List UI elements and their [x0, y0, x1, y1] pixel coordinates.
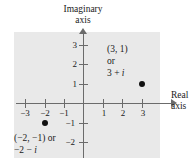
imaginary-axis-title-line2: axis: [53, 15, 113, 26]
real-axis-line: [16, 103, 172, 104]
complex-plane-figure: −3 −2 −1 1 2 3 3 2 1 −1 −2 Imaginary axi…: [0, 0, 196, 166]
y-tick-label: 1: [63, 79, 77, 89]
y-tick-mark: [79, 123, 88, 124]
x-tick-mark: [103, 99, 104, 108]
y-tick-mark: [79, 84, 88, 85]
annotation-complex-prefix: −2 −: [14, 145, 34, 155]
imaginary-axis-line: [83, 34, 84, 158]
annotation-complex-form: −2 − i: [14, 144, 56, 156]
annotation-imaginary-unit: i: [34, 145, 37, 155]
x-tick-label: 1: [96, 108, 112, 118]
annotation-complex-form: 3 + i: [107, 67, 128, 79]
x-tick-label: 3: [135, 108, 151, 118]
annotation-point-3-1: (3, 1) or 3 + i: [107, 43, 128, 79]
x-tick-label: −2: [37, 108, 53, 118]
y-tick-label: 2: [63, 59, 77, 69]
imaginary-axis-title-line1: Imaginary: [53, 4, 113, 15]
annotation-coordinate: (−2, −1) or: [14, 132, 56, 144]
real-axis-title: Real axis: [171, 90, 196, 112]
annotation-imaginary-unit: i: [122, 68, 125, 78]
annotation-coordinate: (3, 1): [107, 43, 128, 55]
data-point-minus2-minus1: [42, 120, 48, 126]
x-tick-label: −1: [56, 108, 72, 118]
y-tick-mark: [79, 64, 88, 65]
y-tick-label: −1: [61, 118, 75, 128]
annotation-connector: or: [107, 55, 128, 67]
real-axis-title-line2: axis: [171, 101, 196, 112]
imaginary-axis-arrowhead-icon: [79, 28, 87, 34]
x-tick-mark: [45, 99, 46, 108]
x-tick-label: 2: [115, 108, 131, 118]
x-tick-mark: [25, 99, 26, 108]
y-tick-label: 3: [63, 40, 77, 50]
y-tick-mark: [79, 142, 88, 143]
x-tick-mark: [64, 99, 65, 108]
real-axis-title-line1: Real: [171, 90, 196, 101]
annotation-point-minus2-minus1: (−2, −1) or −2 − i: [14, 132, 56, 156]
annotation-complex-prefix: 3 +: [107, 68, 122, 78]
data-point-3-1: [139, 81, 145, 87]
y-tick-mark: [79, 45, 88, 46]
x-tick-label: −3: [17, 108, 33, 118]
y-tick-label: −2: [61, 137, 75, 147]
x-tick-mark: [122, 99, 123, 108]
imaginary-axis-title: Imaginary axis: [53, 4, 113, 26]
x-tick-mark: [142, 99, 143, 108]
